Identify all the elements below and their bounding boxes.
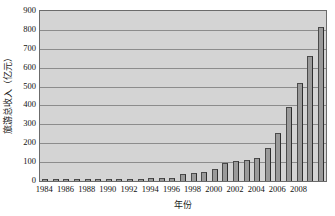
- x-axis-tick-label: 1996: [163, 184, 180, 195]
- bar: [286, 107, 292, 181]
- x-axis-tick-label: 1988: [78, 184, 95, 195]
- bar: [169, 178, 175, 181]
- y-axis-tick-label: 200: [23, 138, 36, 147]
- y-axis-tick-label: 700: [23, 43, 36, 52]
- x-axis-tick-label: 2004: [248, 184, 265, 195]
- plot-area: [39, 10, 327, 182]
- bar: [212, 169, 218, 181]
- bar: [191, 173, 197, 181]
- y-axis-tick-label: 800: [23, 24, 36, 33]
- bar: [233, 161, 239, 181]
- bar: [318, 27, 324, 181]
- x-axis-tick-label: 1992: [121, 184, 138, 195]
- bar: [95, 179, 101, 181]
- bar: [222, 163, 228, 181]
- x-axis-tick-label: 1984: [36, 184, 53, 195]
- bar-series: [40, 11, 326, 181]
- bar: [265, 148, 271, 181]
- bar: [275, 133, 281, 181]
- x-axis-title: 年份: [39, 198, 327, 211]
- bar: [74, 179, 80, 181]
- y-axis-tick-label: 100: [23, 157, 36, 166]
- y-axis-tick-labels: 0100200300400500600700800900: [14, 0, 38, 190]
- bar: [53, 179, 59, 181]
- x-axis-tick-label: 1986: [57, 184, 74, 195]
- y-axis-title-text: 旅游总收入（亿元）: [1, 53, 14, 134]
- bar: [148, 178, 154, 181]
- y-axis-title: 旅游总收入（亿元）: [0, 0, 14, 186]
- bar: [127, 179, 133, 181]
- y-axis-tick-label: 900: [23, 6, 36, 15]
- y-axis-tick-label: 300: [23, 119, 36, 128]
- y-axis-tick-label: 500: [23, 81, 36, 90]
- x-axis-tick-label: 2006: [269, 184, 286, 195]
- bar: [63, 179, 69, 181]
- bar: [297, 83, 303, 181]
- x-axis-tick-label: 1990: [99, 184, 116, 195]
- bar: [85, 179, 91, 181]
- bar: [138, 179, 144, 181]
- y-axis-tick-label: 400: [23, 100, 36, 109]
- bar: [159, 178, 165, 181]
- x-axis-tick-label: 1994: [142, 184, 159, 195]
- x-axis-tick-label: 2000: [205, 184, 222, 195]
- bar: [307, 56, 313, 181]
- bar: [244, 160, 250, 181]
- chart-figure: 旅游总收入（亿元） 0100200300400500600700800900 1…: [0, 0, 335, 216]
- x-axis-tick-label: 2002: [226, 184, 243, 195]
- bar: [180, 174, 186, 181]
- bar: [201, 172, 207, 181]
- bar: [106, 179, 112, 181]
- bar: [42, 179, 48, 181]
- bar: [254, 158, 260, 181]
- x-axis-tick-label: 1998: [184, 184, 201, 195]
- bar: [116, 179, 122, 181]
- y-axis-tick-label: 600: [23, 62, 36, 71]
- x-axis-tick-label: 2008: [290, 184, 307, 195]
- x-axis-tick-labels: 1984198619881990199219941996199820002002…: [39, 184, 327, 198]
